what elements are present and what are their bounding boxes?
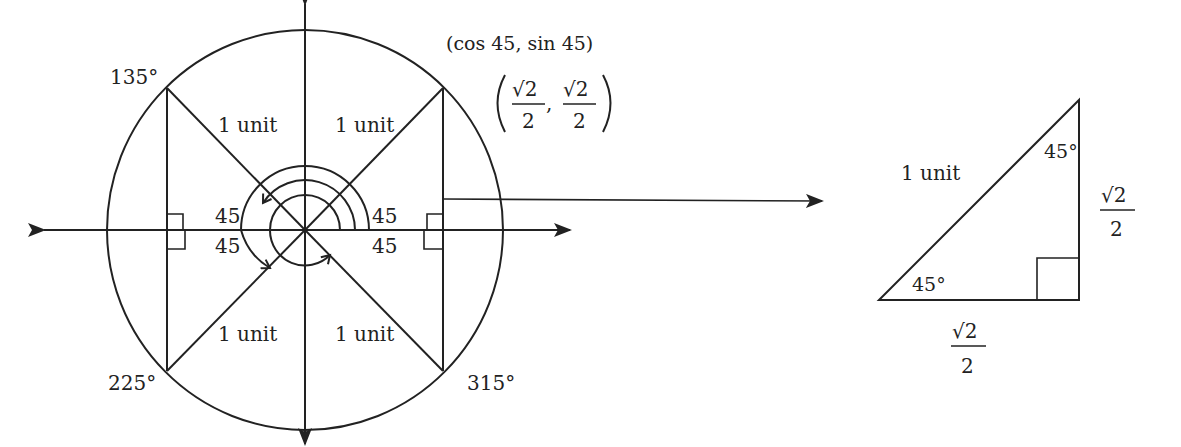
triangle-top-angle: 45° — [1044, 140, 1078, 162]
connector-arrow — [443, 199, 822, 201]
right-angle-marker — [427, 214, 443, 230]
triangle-bottom-angle: 45° — [912, 273, 946, 295]
angle-label-315: 315° — [467, 371, 515, 395]
coord-x-den: 2 — [522, 109, 535, 133]
radius-label-q2: 1 unit — [218, 113, 277, 137]
radius-label-q4: 1 unit — [335, 322, 394, 346]
vertical-leg-den: 2 — [1110, 217, 1123, 241]
right-angle-marker — [167, 214, 183, 230]
coord-y-num: √2 — [563, 77, 588, 101]
horizontal-leg-num: √2 — [952, 319, 977, 343]
right-angle-marker — [167, 230, 185, 249]
point-coordinates: √2 2 , √2 2 — [498, 75, 611, 133]
triangle-hypotenuse-label: 1 unit — [901, 161, 960, 185]
radius-label-q3: 1 unit — [218, 322, 277, 346]
unit-circle-diagram: 135° 225° 315° 1 unit 1 unit 1 unit 1 un… — [0, 0, 1181, 447]
coord-comma: , — [546, 91, 552, 115]
horizontal-leg-den: 2 — [961, 354, 974, 378]
radius-label-q1: 1 unit — [335, 113, 394, 137]
ref-angle-label: 45 — [215, 234, 240, 258]
angle-arc-135 — [263, 180, 355, 230]
vertical-leg-num: √2 — [1101, 183, 1126, 207]
angle-label-135: 135° — [110, 65, 158, 89]
coord-y-den: 2 — [573, 109, 586, 133]
angle-label-225: 225° — [108, 371, 156, 395]
reference-triangle: 1 unit 45° 45° √2 2 √2 2 — [879, 100, 1135, 378]
ref-angle-label: 45 — [372, 204, 397, 228]
coord-x-num: √2 — [512, 77, 537, 101]
ref-angle-label: 45 — [215, 204, 240, 228]
right-angle-marker — [424, 230, 443, 249]
ref-angle-label: 45 — [372, 234, 397, 258]
point-label: (cos 45, sin 45) — [446, 32, 593, 54]
